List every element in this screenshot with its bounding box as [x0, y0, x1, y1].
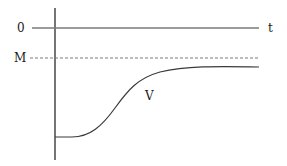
- label-zero: 0: [17, 22, 25, 34]
- label-v: V: [145, 90, 154, 102]
- label-t: t: [268, 22, 273, 34]
- diagram: 0 M t V: [0, 0, 287, 166]
- diagram-canvas: [0, 0, 287, 166]
- curve-v: [55, 67, 259, 137]
- label-m: M: [14, 52, 26, 64]
